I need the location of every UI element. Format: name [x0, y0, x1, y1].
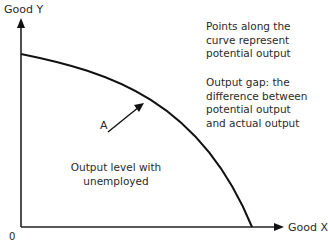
- y-axis-arrowhead-icon: [17, 18, 25, 28]
- x-axis-label: Good X: [288, 221, 328, 234]
- note-output-gap: Output gap: the difference between poten…: [206, 76, 307, 130]
- note2-line1: Output gap: the: [206, 76, 307, 90]
- inner-label-line1: Output level with: [61, 161, 171, 175]
- point-a-label: A: [100, 119, 108, 132]
- origin-label: 0: [9, 230, 15, 243]
- y-axis-label: Good Y: [4, 3, 43, 16]
- note2-line3: potential output: [206, 103, 307, 117]
- inner-label: Output level with unemployed: [61, 161, 171, 188]
- note1-line3: potential output: [206, 47, 291, 61]
- note2-line4: and actual output: [206, 117, 307, 131]
- note1-line2: curve represent: [206, 34, 291, 48]
- note1-line1: Points along the: [206, 20, 291, 34]
- x-axis-arrowhead-icon: [274, 223, 284, 231]
- point-a-arrow: [108, 107, 139, 132]
- note-potential-output: Points along the curve represent potenti…: [206, 20, 291, 61]
- inner-label-line2: unemployed: [61, 175, 171, 189]
- note2-line2: difference between: [206, 90, 307, 104]
